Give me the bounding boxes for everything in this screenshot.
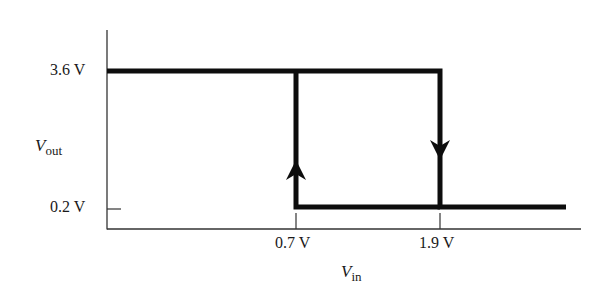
- x-tick-label-0.7v: 0.7 V: [275, 234, 310, 252]
- y-tick-label-low: 0.2 V: [50, 198, 85, 216]
- y-axis-title: Vout: [35, 136, 62, 159]
- y-tick-label-high: 3.6 V: [50, 61, 85, 79]
- hysteresis-diagram: [0, 0, 603, 297]
- x-tick-label-1.9v: 1.9 V: [419, 234, 454, 252]
- x-axis-title: Vin: [341, 262, 362, 285]
- hysteresis-curve: [107, 71, 566, 207]
